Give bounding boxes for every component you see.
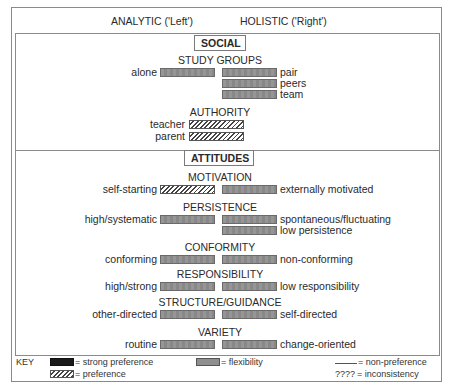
bar-change-oriented-flexibility	[222, 340, 277, 349]
bar-conforming-flexibility	[160, 255, 215, 264]
bar-teacher-preference	[189, 120, 244, 129]
key-label-preference: = preference	[75, 369, 126, 380]
group-title-responsibility: RESPONSIBILITY	[160, 268, 280, 280]
key-label-non-preference: = non-preference	[358, 357, 427, 368]
key-label-strong-preference: = strong preference	[75, 357, 153, 368]
label-self-starting: self-starting	[60, 183, 157, 195]
label-self-directed: self-directed	[280, 308, 337, 320]
key-label-inconsistency: = inconsistency	[357, 369, 419, 380]
label-change-oriented: change-oriented	[280, 338, 356, 350]
group-title-motivation: MOTIVATION	[160, 171, 280, 183]
bar-externally-motivated-flexibility	[222, 185, 277, 194]
bar-team-flexibility	[222, 90, 277, 99]
bar-pair-flexibility	[222, 68, 277, 77]
strong-preference-swatch-icon	[50, 358, 74, 366]
preference-swatch-icon	[50, 370, 74, 378]
label-high-systematic: high/systematic	[60, 213, 157, 225]
section-title-attitudes: ATTITUDES	[184, 150, 254, 166]
bar-low-persistence-flexibility	[222, 226, 277, 235]
holistic-column-header: HOLISTIC ('Right')	[240, 15, 327, 27]
group-title-authority: AUTHORITY	[180, 106, 260, 118]
key-label-flexibility: = flexibility	[221, 357, 263, 368]
label-parent: parent	[130, 130, 185, 142]
label-alone: alone	[100, 66, 157, 78]
label-teacher: teacher	[130, 118, 185, 130]
group-title-conformity: CONFORMITY	[160, 241, 280, 253]
label-low-responsibility: low responsibility	[280, 280, 359, 292]
label-low-persistence: low persistence	[280, 224, 352, 236]
bar-high-strong-flexibility	[160, 282, 215, 291]
label-routine: routine	[60, 338, 157, 350]
bar-routine-flexibility	[160, 340, 215, 349]
key-title: KEY	[16, 357, 34, 368]
label-externally-motivated: externally motivated	[280, 183, 373, 195]
label-non-conforming: non-conforming	[280, 253, 353, 265]
bar-low-responsibility-flexibility	[222, 282, 277, 291]
section-title-social: SOCIAL	[194, 35, 246, 51]
flexibility-swatch-icon	[196, 358, 220, 366]
inconsistency-marks-icon: ????	[335, 369, 355, 380]
group-title-structure-guidance: STRUCTURE/GUIDANCE	[150, 296, 290, 308]
bar-alone-flexibility	[160, 68, 215, 77]
group-title-variety: VARIETY	[180, 326, 260, 338]
bar-self-starting-preference	[160, 185, 215, 194]
label-other-directed: other-directed	[60, 308, 157, 320]
bar-high-systematic-flexibility	[160, 215, 215, 224]
analytic-column-header: ANALYTIC ('Left')	[111, 15, 193, 27]
bar-peers-flexibility	[222, 79, 277, 88]
bar-parent-preference	[189, 132, 244, 141]
group-title-study-groups: STUDY GROUPS	[160, 54, 280, 66]
bar-other-directed-flexibility	[160, 310, 215, 319]
label-high-strong: high/strong	[60, 280, 157, 292]
bar-non-conforming-flexibility	[222, 255, 277, 264]
group-title-persistence: PERSISTENCE	[160, 201, 280, 213]
bar-self-directed-flexibility	[222, 310, 277, 319]
non-preference-line-icon	[335, 363, 357, 364]
label-conforming: conforming	[60, 253, 157, 265]
bar-spontaneous-fluctuating-flexibility	[222, 215, 277, 224]
label-team: team	[280, 88, 303, 100]
